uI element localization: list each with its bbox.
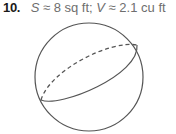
sphere-figure: [0, 0, 176, 134]
sphere-outline: [35, 23, 143, 131]
sphere-visible-ellipse: [41, 45, 137, 101]
sphere-hidden-ellipse: [41, 44, 137, 100]
